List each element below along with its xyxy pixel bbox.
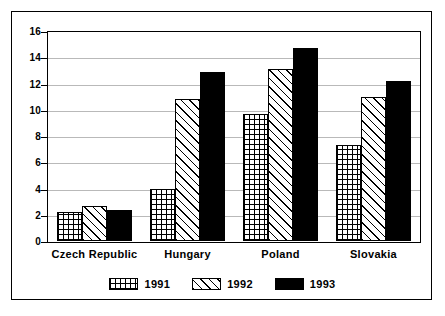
bar-slovakia-1993: [386, 81, 411, 241]
legend-item-1993[interactable]: 1993: [275, 278, 336, 290]
y-axis: 0246810121416: [14, 0, 41, 316]
bar-czech-republic-1992: [82, 206, 107, 241]
y-axis-tick-mark: [41, 190, 47, 191]
y-axis-tick-label: 12: [19, 80, 41, 90]
y-axis-tick-label: 2: [19, 211, 41, 221]
bar-poland-1992: [268, 69, 293, 241]
y-axis-tick-mark: [41, 163, 47, 164]
bar-slovakia-1992: [361, 97, 386, 241]
chart-figure: 0246810121416 Czech RepublicHungaryPolan…: [0, 0, 445, 316]
bar-group: [336, 31, 411, 241]
y-axis-tick-label: 10: [19, 106, 41, 116]
y-axis-tick-label: 4: [19, 185, 41, 195]
bar-group: [150, 31, 225, 241]
y-axis-tick-mark: [41, 85, 47, 86]
y-axis-tick-mark: [41, 216, 47, 217]
y-axis-tick-mark: [41, 32, 47, 33]
bar-czech-republic-1991: [57, 212, 82, 241]
bar-hungary-1992: [175, 99, 200, 241]
y-axis-tick-label: 6: [19, 158, 41, 168]
legend-item-1992[interactable]: 1992: [192, 278, 253, 290]
legend-label-1993: 1993: [310, 278, 336, 290]
y-axis-tick-mark: [41, 58, 47, 59]
legend-label-1992: 1992: [227, 278, 253, 290]
y-axis-tick-label: 0: [19, 237, 41, 247]
bar-poland-1991: [243, 114, 268, 241]
x-axis-label-slovakia: Slovakia: [294, 248, 445, 260]
legend-swatch-1991: [109, 278, 138, 290]
bar-slovakia-1991: [336, 145, 361, 241]
plot-area: [47, 31, 421, 243]
legend-swatch-1993: [275, 278, 304, 290]
bar-group: [57, 31, 132, 241]
y-axis-tick-label: 8: [19, 132, 41, 142]
bar-czech-republic-1993: [107, 210, 132, 242]
bar-hungary-1991: [150, 189, 175, 242]
y-axis-tick-mark: [41, 137, 47, 138]
bar-group: [243, 31, 318, 241]
legend-label-1991: 1991: [144, 278, 170, 290]
y-axis-tick-mark: [41, 111, 47, 112]
bar-hungary-1993: [200, 72, 225, 241]
legend-swatch-1992: [192, 278, 221, 290]
y-axis-tick-label: 16: [19, 27, 41, 37]
y-axis-tick-label: 14: [19, 53, 41, 63]
bar-poland-1993: [293, 48, 318, 241]
legend-item-1991[interactable]: 1991: [109, 278, 170, 290]
y-axis-tick-mark: [41, 242, 47, 243]
chart-legend: 199119921993: [0, 274, 445, 294]
